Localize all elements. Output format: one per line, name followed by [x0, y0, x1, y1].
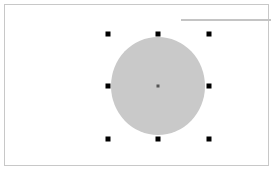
center-point-marker [157, 85, 160, 88]
resize-handle-top-left[interactable] [106, 32, 111, 37]
resize-handle-bottom-center[interactable] [156, 137, 161, 142]
resize-handle-top-right[interactable] [207, 32, 212, 37]
resize-handle-middle-right[interactable] [207, 84, 212, 89]
resize-handle-top-center[interactable] [156, 32, 161, 37]
resize-handle-middle-left[interactable] [106, 84, 111, 89]
resize-handle-bottom-right[interactable] [207, 137, 212, 142]
resize-handle-bottom-left[interactable] [106, 137, 111, 142]
guide-line [181, 19, 271, 21]
